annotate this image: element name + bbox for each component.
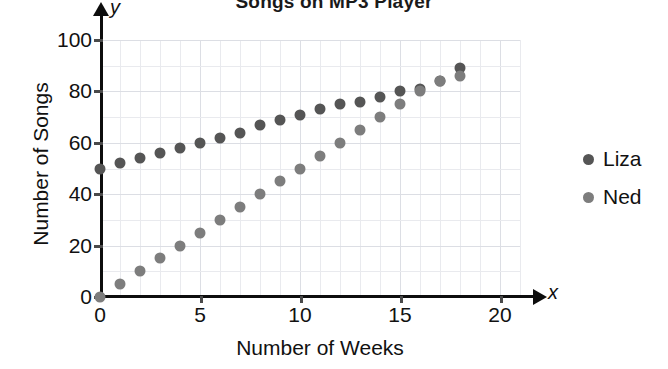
- data-point: [195, 227, 206, 238]
- data-point: [215, 214, 226, 225]
- y-axis-arrow-icon: [93, 2, 109, 16]
- plot-area: [100, 40, 520, 297]
- data-point: [255, 189, 266, 200]
- data-point: [235, 202, 246, 213]
- data-point: [375, 91, 386, 102]
- data-point: [335, 99, 346, 110]
- data-point: [435, 76, 446, 87]
- data-point: [375, 112, 386, 123]
- data-point: [275, 114, 286, 125]
- data-point: [95, 163, 106, 174]
- data-point: [395, 86, 406, 97]
- x-axis-letter: x: [548, 281, 558, 304]
- data-point: [395, 99, 406, 110]
- y-axis-tick-label: 0: [0, 285, 92, 309]
- x-axis-tick-mark: [500, 296, 503, 303]
- data-point: [115, 158, 126, 169]
- data-point: [135, 266, 146, 277]
- data-point: [455, 70, 466, 81]
- x-axis-tick-label: 0: [94, 303, 106, 327]
- data-point: [295, 109, 306, 120]
- data-point: [315, 104, 326, 115]
- legend-item-liza[interactable]: Liza: [583, 140, 642, 178]
- data-point: [415, 86, 426, 97]
- data-point: [195, 137, 206, 148]
- chart-legend: LizaNed: [583, 140, 642, 216]
- data-point: [335, 137, 346, 148]
- data-point: [175, 240, 186, 251]
- data-point: [355, 124, 366, 135]
- data-point: [155, 148, 166, 159]
- x-axis-tick-label: 5: [194, 303, 206, 327]
- x-axis-tick-mark: [200, 296, 203, 303]
- data-point: [95, 292, 106, 303]
- data-point: [275, 176, 286, 187]
- data-point: [315, 150, 326, 161]
- data-point: [155, 253, 166, 264]
- data-point: [215, 132, 226, 143]
- legend-marker-icon: [583, 192, 594, 203]
- x-axis-arrow-icon: [533, 289, 547, 305]
- data-point: [115, 279, 126, 290]
- y-axis-tick-label: 60: [0, 131, 92, 155]
- legend-marker-icon: [583, 154, 594, 165]
- data-point: [355, 96, 366, 107]
- y-axis-tick-label: 40: [0, 182, 92, 206]
- y-axis-letter: y: [110, 0, 120, 19]
- scatter-chart: Songs on MP3 Player Number of Songs Numb…: [0, 0, 668, 369]
- x-axis-tick-mark: [300, 296, 303, 303]
- x-axis-tick-label: 15: [388, 303, 411, 327]
- legend-label: Ned: [603, 185, 642, 209]
- legend-item-ned[interactable]: Ned: [583, 178, 642, 216]
- x-axis-tick-label: 10: [288, 303, 311, 327]
- x-axis-tick-label: 20: [488, 303, 511, 327]
- y-axis-tick-label: 20: [0, 234, 92, 258]
- gridline-vertical: [520, 40, 521, 297]
- data-point: [295, 163, 306, 174]
- legend-label: Liza: [603, 147, 642, 171]
- x-axis-tick-mark: [400, 296, 403, 303]
- data-point: [235, 127, 246, 138]
- y-axis-tick-label: 100: [0, 28, 92, 52]
- y-axis-tick-label: 80: [0, 79, 92, 103]
- data-point: [135, 153, 146, 164]
- data-point: [175, 142, 186, 153]
- data-point: [255, 119, 266, 130]
- x-axis-title: Number of Weeks: [100, 336, 540, 360]
